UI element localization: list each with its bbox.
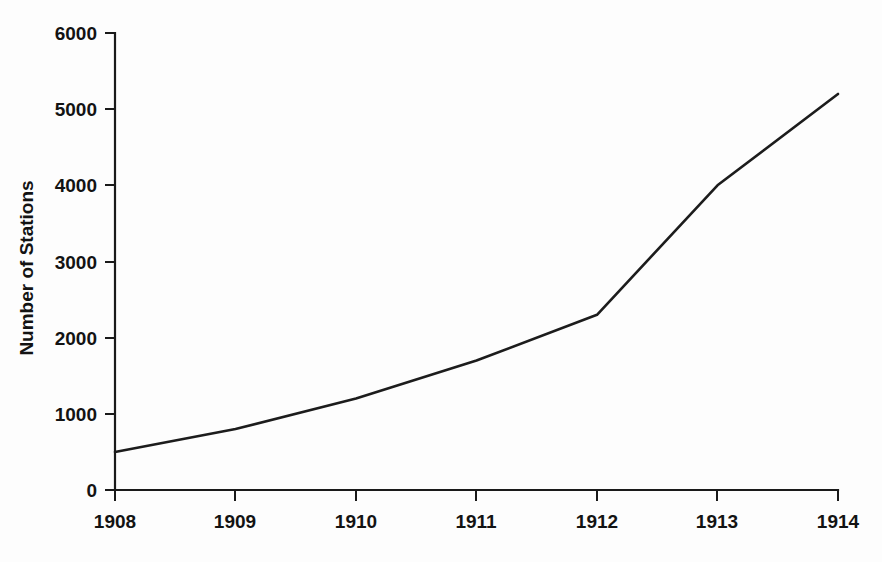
y-axis-title: Number of Stations xyxy=(16,180,37,355)
y-tick-label-5000: 5000 xyxy=(55,99,97,120)
y-tick-label-1000: 1000 xyxy=(55,404,97,425)
x-tick-label-1908: 1908 xyxy=(94,511,136,532)
x-tick-label-1911: 1911 xyxy=(455,511,497,532)
y-tick-label-4000: 4000 xyxy=(55,175,97,196)
plot-background xyxy=(0,0,882,562)
y-tick-label-3000: 3000 xyxy=(55,252,97,273)
line-chart: 6000 5000 4000 3000 2000 1000 0 1908 190… xyxy=(0,0,882,562)
y-tick-label-2000: 2000 xyxy=(55,328,97,349)
x-tick-label-1913: 1913 xyxy=(696,511,738,532)
y-tick-label-0: 0 xyxy=(86,480,97,501)
x-tick-label-1914: 1914 xyxy=(817,511,860,532)
x-tick-label-1912: 1912 xyxy=(576,511,618,532)
x-tick-label-1910: 1910 xyxy=(335,511,377,532)
y-tick-label-6000: 6000 xyxy=(55,23,97,44)
x-tick-label-1909: 1909 xyxy=(214,511,256,532)
chart-page: 6000 5000 4000 3000 2000 1000 0 1908 190… xyxy=(0,0,882,562)
